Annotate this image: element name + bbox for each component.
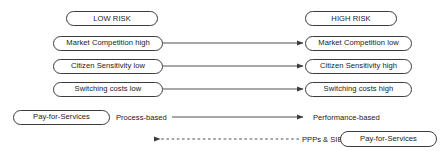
label-process-based: Process-based [116, 114, 167, 122]
pill-citizen-sensitivity-low[interactable]: Citizen Sensitivity low [53, 59, 163, 74]
pill-pay-for-services-left-label: Pay-for-Services [33, 113, 90, 121]
pill-market-competition-high[interactable]: Market Competition high [53, 36, 163, 51]
pill-pay-for-services-left[interactable]: Pay-for-Services [13, 110, 110, 125]
pill-citizen-sensitivity-high-label: Citizen Sensitivity high [320, 62, 397, 70]
pill-citizen-sensitivity-high[interactable]: Citizen Sensitivity high [305, 59, 412, 74]
label-performance-based: Performance-based [313, 114, 380, 122]
pill-switching-costs-high[interactable]: Switching costs high [305, 82, 412, 97]
pill-citizen-sensitivity-low-label: Citizen Sensitivity low [71, 62, 145, 70]
pill-switching-costs-low-label: Switching costs low [75, 85, 142, 93]
pill-low-risk[interactable]: LOW RISK [66, 11, 158, 26]
pill-market-competition-low[interactable]: Market Competition low [305, 36, 412, 51]
pill-high-risk-label: HIGH RISK [331, 15, 370, 23]
pill-switching-costs-high-label: Switching costs high [324, 85, 394, 93]
pill-switching-costs-low[interactable]: Switching costs low [53, 82, 163, 97]
pill-low-risk-label: LOW RISK [93, 15, 131, 23]
pill-pay-for-services-right[interactable]: Pay-for-Services [340, 131, 437, 147]
pill-market-competition-high-label: Market Competition high [66, 39, 149, 47]
pill-pay-for-services-right-label: Pay-for-Services [360, 135, 417, 143]
diagram-canvas: LOW RISK HIGH RISK Market Competition hi… [0, 0, 448, 154]
pill-market-competition-low-label: Market Competition low [318, 39, 398, 47]
pill-high-risk[interactable]: HIGH RISK [305, 11, 397, 26]
